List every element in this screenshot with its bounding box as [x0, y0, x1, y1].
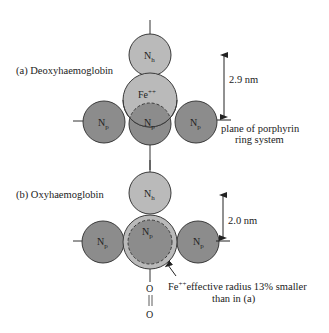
plane-label-line2: ring system	[235, 134, 284, 145]
panel-deoxyhaemoglobin: (a) Deoxyhaemoglobin Nh Fe++ Np Np Np 2.…	[16, 20, 300, 170]
fe-note-b: Fe++effective radius 13% smaller	[168, 280, 307, 292]
distance-label-a: 2.9 nm	[229, 74, 258, 85]
panel-a-title: (a) Deoxyhaemoglobin	[16, 65, 114, 77]
distance-label-b: 2.0 nm	[228, 215, 257, 226]
panel-oxyhaemoglobin: (b) Oxyhaemoglobin Nh Np Np Np 2.0 nm Fe…	[16, 160, 307, 320]
oxygen-1: O	[146, 283, 153, 294]
oxygen-2: O	[146, 309, 153, 320]
panel-b-title: (b) Oxyhaemoglobin	[16, 189, 105, 201]
fe-pointer-arrow	[168, 265, 176, 276]
plane-label-line1: plane of porphyrin	[221, 123, 300, 134]
fe-note-b-line2: than in (a)	[212, 293, 256, 305]
atom-np-center-b	[128, 220, 172, 264]
haemoglobin-diagram: (a) Deoxyhaemoglobin Nh Fe++ Np Np Np 2.…	[0, 0, 329, 333]
